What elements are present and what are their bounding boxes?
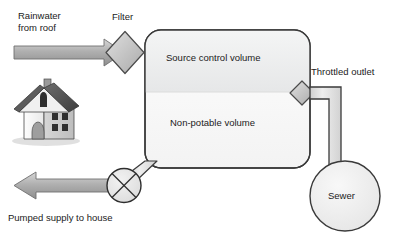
- label-throttled-outlet: Throttled outlet: [311, 66, 374, 78]
- label-source-control-volume: Source control volume: [166, 52, 261, 64]
- storage-tank: [145, 30, 310, 168]
- rainwater-system-diagram: Rainwater from roof Filter Source contro…: [0, 0, 395, 240]
- label-non-potable-volume: Non-potable volume: [170, 117, 255, 129]
- label-sewer: Sewer: [328, 190, 355, 202]
- house-icon: [12, 79, 80, 146]
- label-filter: Filter: [112, 11, 133, 23]
- filter-valve: [106, 32, 144, 74]
- label-pumped-supply-to-house: Pumped supply to house: [8, 212, 113, 224]
- label-rainwater-from-roof: Rainwater from roof: [18, 10, 61, 33]
- pump: [107, 169, 141, 203]
